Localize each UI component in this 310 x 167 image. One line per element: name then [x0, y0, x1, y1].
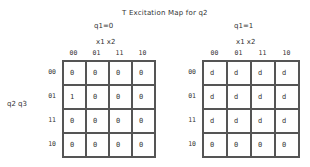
map-cell: 0: [109, 85, 132, 109]
map-cell: d: [275, 109, 299, 133]
map-title: T Excitation Map for q2: [122, 9, 208, 17]
row-header: 11: [176, 116, 196, 124]
map-cell: 0: [86, 85, 109, 109]
map-cell: 0: [227, 133, 251, 157]
map-cell: d: [251, 61, 275, 85]
map-cell: d: [227, 61, 251, 85]
col-header: 00: [62, 49, 85, 57]
col-header: 11: [108, 49, 131, 57]
map-cell: 0: [251, 133, 275, 157]
karnaugh-map-q1-1: d d d d d d d d d d d d 0 0 0 0: [202, 60, 300, 158]
row-header: 01: [36, 92, 56, 100]
col-header: 11: [251, 49, 274, 57]
col-header: 01: [85, 49, 108, 57]
map-0-condition: q1=0: [94, 22, 113, 30]
row-header: 01: [176, 92, 196, 100]
map-cell: 0: [86, 133, 109, 157]
map-cell: d: [227, 85, 251, 109]
col-header: 00: [203, 49, 226, 57]
map-cell: d: [275, 61, 299, 85]
row-header: 10: [36, 140, 56, 148]
map-cell: d: [251, 109, 275, 133]
map-cell: d: [227, 109, 251, 133]
map-cell: 0: [203, 133, 227, 157]
map-cell: 0: [109, 61, 132, 85]
col-header: 10: [275, 49, 298, 57]
map-cell: d: [275, 85, 299, 109]
map-cell: d: [203, 85, 227, 109]
row-header: 11: [36, 116, 56, 124]
karnaugh-map-q1-0: 0 0 0 0 1 0 0 0 0 0 0 0 0 0 0 0: [62, 60, 156, 158]
map-cell: d: [203, 61, 227, 85]
col-header: 10: [131, 49, 154, 57]
map-cell: 0: [63, 133, 86, 157]
map-cell: 0: [86, 109, 109, 133]
map-cell: 0: [86, 61, 109, 85]
map-cell: d: [251, 85, 275, 109]
map-cell: 0: [132, 85, 155, 109]
map-cell: 1: [63, 85, 86, 109]
row-variable-label: q2 q3: [7, 100, 27, 108]
map-cell: 0: [132, 133, 155, 157]
map-cell: 0: [109, 133, 132, 157]
map-1-column-variable: x1 x2: [236, 38, 255, 46]
col-header: 01: [227, 49, 250, 57]
row-header: 00: [36, 68, 56, 76]
map-0-column-variable: x1 x2: [96, 38, 115, 46]
map-cell: 0: [132, 61, 155, 85]
row-header: 00: [176, 68, 196, 76]
map-cell: 0: [63, 61, 86, 85]
map-cell: 0: [275, 133, 299, 157]
map-1-condition: q1=1: [234, 22, 253, 30]
map-cell: d: [203, 109, 227, 133]
map-cell: 0: [132, 109, 155, 133]
map-cell: 0: [109, 109, 132, 133]
row-header: 10: [176, 140, 196, 148]
map-cell: 0: [63, 109, 86, 133]
